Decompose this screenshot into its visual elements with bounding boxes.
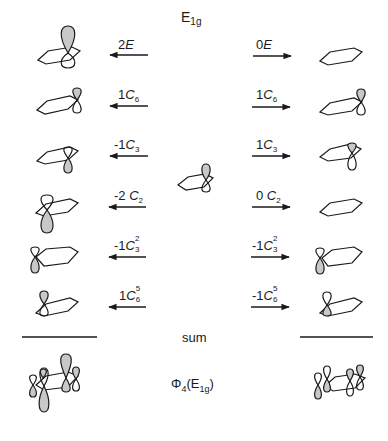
result-label: Φ4(E1g)	[171, 376, 214, 394]
sum-orbital-left-icon	[30, 354, 80, 412]
right-label-row-1: 0E	[256, 38, 272, 51]
benzene-p-orbital-icon	[320, 143, 361, 170]
right-label-row-3: 1C3	[256, 138, 277, 154]
benzene-p-orbital-icon	[36, 195, 78, 233]
benzene-ring-icon	[320, 199, 362, 216]
diagram-title: E1g	[181, 9, 201, 27]
benzene-p-orbital-icon	[38, 26, 80, 68]
benzene-p-orbital-icon	[31, 247, 78, 273]
left-label-row-6: 1C56	[119, 289, 143, 302]
title-main: E	[181, 9, 190, 25]
projection-operator-diagram: E1g 2E 1C6 -1C3 -2 C2 -1C23 1C56 0E 1C6 …	[0, 0, 388, 441]
benzene-ring-icon	[320, 48, 362, 65]
sum-label: sum	[182, 330, 207, 345]
right-label-row-6: -1C56	[252, 289, 280, 302]
right-label-row-4: 0 C2	[256, 189, 281, 205]
benzene-p-orbital-icon	[36, 291, 78, 316]
left-label-row-2: 1C6	[118, 88, 139, 104]
title-sub: 1g	[190, 16, 201, 27]
left-label-row-3: -1C3	[114, 138, 139, 154]
benzene-p-orbital-icon	[316, 247, 362, 274]
benzene-p-orbital-icon	[37, 147, 78, 173]
left-label-row-4: -2 C2	[114, 189, 143, 205]
diagram-graphics	[0, 0, 388, 441]
right-label-row-2: 1C6	[256, 88, 277, 104]
left-label-row-5: -1C23	[114, 239, 142, 252]
left-label-row-1: 2E	[118, 38, 134, 51]
right-label-row-5: -1C23	[252, 239, 280, 252]
sum-orbital-right-icon	[315, 365, 365, 399]
benzene-p-orbital-icon	[320, 292, 362, 316]
benzene-p-orbital-icon	[37, 88, 81, 114]
benzene-p-orbital-icon	[320, 89, 365, 115]
central-p-orbital-icon	[178, 164, 213, 192]
